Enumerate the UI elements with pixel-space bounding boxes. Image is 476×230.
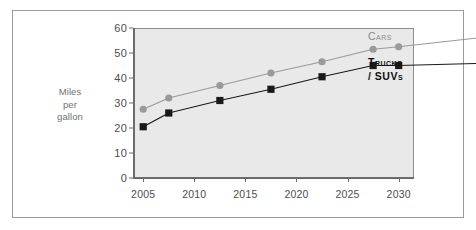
- y-axis-title-line-3: gallon: [36, 111, 104, 124]
- x-tick-label: 2030: [387, 188, 411, 200]
- x-tick-mark: [296, 178, 297, 182]
- y-axis-title: Miles per gallon: [36, 86, 104, 124]
- data-point-marker: [140, 123, 147, 130]
- legend-entry-trucks: Trucks / SUVs: [368, 55, 403, 83]
- y-axis-title-line-2: per: [36, 99, 104, 112]
- x-tick-mark: [399, 178, 400, 182]
- y-axis-title-line-1: Miles: [36, 86, 104, 99]
- x-tick-mark: [245, 178, 246, 182]
- y-tick-label: 60: [114, 22, 127, 34]
- x-tick-label: 2010: [182, 188, 206, 200]
- data-point-marker: [165, 94, 172, 101]
- legend-entry-cars: Cars: [368, 29, 392, 43]
- legend-label-trucks-line-2: / SUVs: [368, 69, 403, 83]
- x-tick-label: 2005: [131, 188, 155, 200]
- data-point-marker: [318, 58, 325, 65]
- plot-area: 0102030405060 200520102015202020252030: [133, 28, 414, 178]
- series-plot-layer: [133, 28, 414, 178]
- data-point-marker: [370, 46, 377, 53]
- y-tick-label: 10: [114, 147, 127, 159]
- fuel-economy-line-chart: Miles per gallon 0102030405060 200520102…: [0, 0, 476, 230]
- x-tick-label: 2020: [284, 188, 308, 200]
- legend-label-cars: Cars: [368, 29, 392, 43]
- data-point-marker: [395, 43, 402, 50]
- y-tick-label: 40: [114, 72, 127, 84]
- legend-label-trucks-line-1: Trucks: [368, 55, 403, 69]
- data-point-marker: [318, 73, 325, 80]
- x-tick-mark: [348, 178, 349, 182]
- data-point-marker: [267, 69, 274, 76]
- data-point-marker: [216, 82, 223, 89]
- data-point-marker: [165, 109, 172, 116]
- data-point-marker: [216, 97, 223, 104]
- y-tick-label: 30: [114, 97, 127, 109]
- y-tick-label: 50: [114, 47, 127, 59]
- y-tick-label: 0: [121, 172, 127, 184]
- x-tick-label: 2025: [335, 188, 359, 200]
- series-line: [143, 47, 398, 110]
- data-point-marker: [267, 86, 274, 93]
- x-tick-mark: [194, 178, 195, 182]
- x-tick-mark: [143, 178, 144, 182]
- y-tick-label: 20: [114, 122, 127, 134]
- data-point-marker: [140, 106, 147, 113]
- x-tick-label: 2015: [233, 188, 257, 200]
